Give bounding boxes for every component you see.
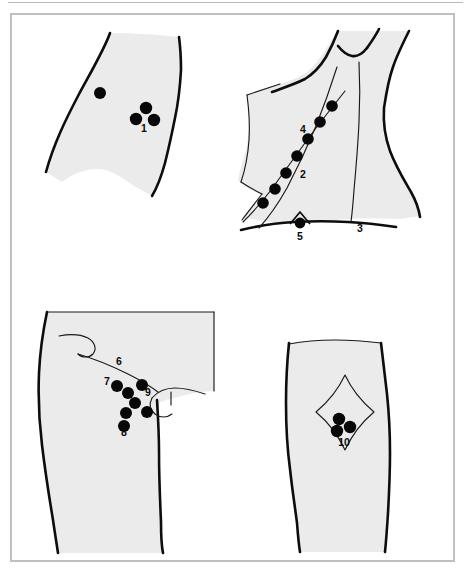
label-1: 1 <box>141 122 147 134</box>
cervical-node-6 <box>269 183 281 195</box>
label-4: 4 <box>300 123 306 135</box>
label-7: 7 <box>104 375 110 387</box>
inguinal-node-6 <box>141 406 153 418</box>
epitrochlear-node-4 <box>148 114 160 126</box>
figure-upper-arm-epitrochlear: 1 <box>46 33 181 196</box>
label-6: 6 <box>116 355 122 367</box>
cervical-node-5 <box>280 167 292 179</box>
figure-groin-inguinal: 6 7 8 9 <box>39 312 214 553</box>
epitrochlear-node-1 <box>94 87 106 99</box>
cervical-node-1 <box>326 100 338 112</box>
inguinal-node-1 <box>111 380 123 392</box>
popliteal-node-2 <box>344 421 356 433</box>
label-5: 5 <box>297 230 303 242</box>
neck-shoulder-skin-fill <box>238 31 419 223</box>
label-3: 3 <box>357 222 363 234</box>
figure-knee-popliteal: 10 <box>286 340 390 552</box>
cervical-node-2 <box>314 116 326 128</box>
label-2: 2 <box>300 168 306 180</box>
plate-page: 1 <box>0 0 471 575</box>
inguinal-node-4 <box>129 397 141 409</box>
inguinal-node-5 <box>120 407 132 419</box>
figure-neck-shoulder-cervical: 4 2 3 5 <box>238 29 420 242</box>
label-8: 8 <box>121 426 127 438</box>
anatomical-figure-canvas: 1 <box>0 0 471 575</box>
label-9: 9 <box>145 386 151 398</box>
label-10: 10 <box>338 436 350 448</box>
cervical-node-4 <box>291 150 303 162</box>
popliteal-node-1 <box>333 413 345 425</box>
epitrochlear-node-2 <box>140 102 152 114</box>
inguinal-node-2 <box>122 387 134 399</box>
upper-arm-skin-fill <box>46 33 181 196</box>
supraclavicular-node <box>295 218 306 229</box>
cervical-node-7 <box>257 197 269 209</box>
